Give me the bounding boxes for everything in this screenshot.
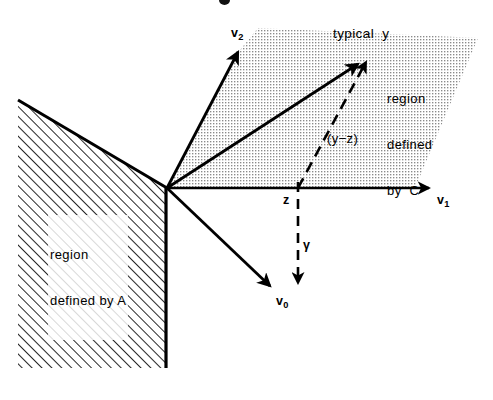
region-c-line-1: region	[387, 91, 432, 106]
y-minus-z-label: (y−z)	[327, 131, 358, 146]
figure-canvas: typical y region defined by C region def…	[0, 0, 493, 400]
v0-subscript: 0	[283, 300, 289, 310]
v0-axis-arrow	[167, 188, 270, 286]
region-c-line-3: by C	[387, 183, 432, 198]
region-a-label: region defined by A	[48, 215, 128, 340]
region-c-label-lines: region defined by C	[387, 60, 432, 229]
region-c-line-2: defined	[387, 137, 432, 152]
region-a-line-2: defined by A	[50, 293, 126, 308]
gamma-label: γ	[303, 238, 310, 253]
v1-axis-label: v1	[437, 193, 450, 208]
typical-y-label: typical y	[333, 26, 390, 42]
v1-subscript: 1	[444, 199, 450, 209]
region-a-line-1: region	[50, 247, 126, 262]
z-point-label: z	[283, 193, 290, 208]
v2-subscript: 2	[238, 32, 244, 42]
v0-axis-label: v0	[276, 294, 289, 309]
v2-axis-label: v2	[231, 26, 244, 41]
bottom-bleed-artifact	[120, 371, 303, 385]
